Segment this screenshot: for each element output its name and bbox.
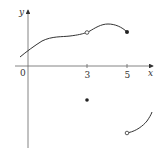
y-axis-label: y [18, 7, 25, 17]
open-circle-x5 [125, 131, 129, 135]
curve-left-piece [20, 24, 127, 57]
tick-3-label: 3 [85, 70, 91, 80]
isolated-point-x3 [85, 98, 89, 102]
closed-dot-x5 [125, 30, 129, 34]
origin-label: 0 [20, 68, 26, 78]
open-circle-x3 [85, 31, 89, 35]
x-axis-label: x [148, 68, 153, 78]
tick-5-label: 5 [125, 70, 131, 80]
function-graph: 0 3 5 x y [0, 0, 161, 153]
curve-right-piece [129, 112, 152, 133]
